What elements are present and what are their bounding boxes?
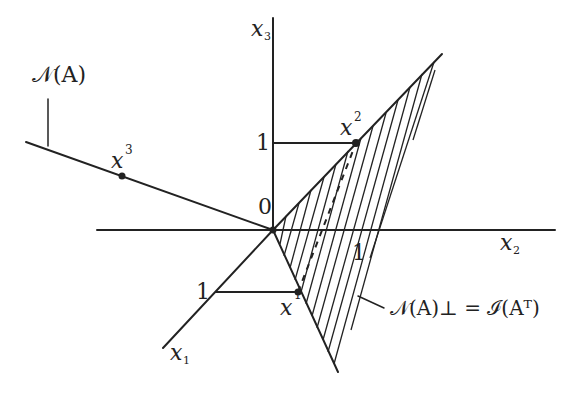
- point-x2-label: x2: [340, 117, 352, 139]
- point-x1-letter: x: [280, 295, 292, 320]
- point-x2-letter: x: [340, 115, 352, 140]
- x2-axis-letter: x: [500, 230, 512, 255]
- null-space-line: [26, 142, 273, 230]
- origin-label: 0: [258, 196, 272, 218]
- diagram-canvas: 𝒩(A) x3 x2 x1 0 1 1 1 x3 x2 x1 𝒩(A)⊥ = ℐ…: [0, 0, 583, 402]
- x1-tick-label: 1: [196, 281, 210, 303]
- x1-axis: [163, 230, 273, 348]
- point-x3-label: x3: [111, 150, 123, 172]
- x3-axis-label: x3: [251, 18, 263, 40]
- orth-complement-label: 𝒩(A)⊥ = ℐ(Aᵀ): [390, 298, 540, 318]
- point-x3-sup: 3: [125, 144, 133, 156]
- x2-axis-label: x2: [500, 232, 512, 254]
- x1-axis-letter: x: [170, 340, 182, 365]
- diagram-svg: [0, 0, 583, 402]
- orth-complement-leader: [358, 296, 384, 308]
- x1-axis-sub: 1: [183, 355, 190, 366]
- point-x2-sup: 2: [354, 111, 362, 123]
- point-x3-letter: x: [111, 148, 123, 173]
- x3-tick-label: 1: [256, 132, 270, 154]
- point-x1-sup: 1: [294, 289, 302, 301]
- point-x2: [352, 139, 360, 147]
- point-x1-label: x1: [280, 297, 292, 319]
- x3-axis-sub: 3: [264, 31, 271, 42]
- null-space-label: 𝒩(A): [32, 64, 86, 86]
- x2-tick-label: 1: [352, 242, 366, 264]
- x1-axis-label: x1: [170, 342, 182, 364]
- x3-axis-letter: x: [251, 16, 263, 41]
- point-x3: [119, 173, 126, 180]
- point-origin: [270, 227, 277, 234]
- x2-axis-sub: 2: [513, 245, 520, 256]
